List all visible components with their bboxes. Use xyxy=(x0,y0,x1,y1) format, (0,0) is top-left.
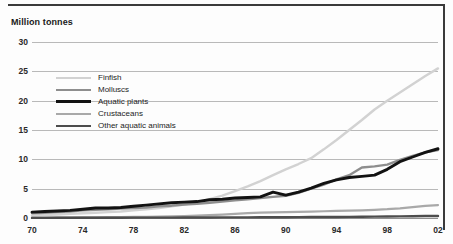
legend-item[interactable]: Molluscs xyxy=(56,84,176,95)
legend-swatch xyxy=(56,113,91,115)
legend-swatch xyxy=(56,100,91,103)
legend-swatch xyxy=(56,77,91,79)
series-line xyxy=(32,149,438,212)
legend-label: Molluscs xyxy=(98,84,129,95)
legend-label: Crustaceans xyxy=(98,108,143,119)
series-line xyxy=(32,150,438,213)
legend-swatch xyxy=(56,89,91,91)
chart-plot-area: Million tonnes 051015202530 707478828690… xyxy=(0,0,453,244)
legend-label: Other aquatic animals xyxy=(98,120,176,131)
legend-label: Finfish xyxy=(98,72,122,83)
legend-item[interactable]: Crustaceans xyxy=(56,108,176,119)
chart-legend: FinfishMolluscsAquatic plantsCrustaceans… xyxy=(56,72,176,132)
legend-item[interactable]: Aquatic plants xyxy=(56,96,176,107)
legend-label: Aquatic plants xyxy=(98,96,148,107)
legend-item[interactable]: Finfish xyxy=(56,72,176,83)
legend-item[interactable]: Other aquatic animals xyxy=(56,120,176,131)
legend-swatch xyxy=(56,125,91,127)
